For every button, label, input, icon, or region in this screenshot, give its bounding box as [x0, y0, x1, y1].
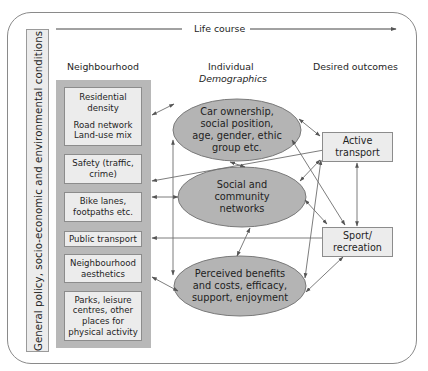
factor-text: community [214, 191, 269, 203]
social-networks-text: Social and community networks [184, 167, 300, 227]
item-text: Land-use mix [74, 130, 132, 141]
neighbourhood-item-density-road-landuse: Residential density Road network Land-us… [64, 87, 142, 146]
factor-text: Social and [217, 179, 268, 191]
factor-text: and costs, efficacy, [193, 280, 287, 292]
item-text: footpaths etc. [73, 207, 133, 218]
neighbourhood-item-safety: Safety (traffic, crime) [64, 154, 142, 184]
perceived-benefits-text: Perceived benefits and costs, efficacy, … [176, 256, 304, 316]
factor-text: Perceived benefits [195, 268, 285, 280]
outcome-text: transport [323, 147, 392, 159]
item-text: Road network [73, 120, 132, 131]
item-text: centres, other [73, 305, 133, 316]
outcome-text: recreation [323, 242, 392, 254]
item-text: Parks, leisure [74, 295, 131, 306]
column-subheader-demographics: Demographics [199, 73, 267, 84]
item-text: density [87, 103, 119, 114]
item-text: places for [82, 316, 124, 327]
column-header-outcomes: Desired outcomes [313, 61, 398, 72]
item-text: Safety (traffic, [72, 158, 134, 169]
timeline-label: Life course [190, 23, 249, 34]
factor-text: support, enjoyment [192, 292, 288, 304]
factor-text: group etc. [212, 142, 262, 154]
neighbourhood-item-bike-lanes: Bike lanes, footpaths etc. [64, 192, 142, 222]
outcome-sport-recreation: Sport/ recreation [322, 227, 393, 257]
neighbourhood-item-aesthetics: Neighbourhood aesthetics [64, 254, 142, 283]
neighbourhood-item-public-transport: Public transport [64, 231, 142, 247]
item-text: aesthetics [81, 269, 125, 280]
factor-text: social position, [201, 118, 274, 130]
column-header-individual: Individual [208, 61, 254, 72]
item-text: Bike lanes, [80, 196, 127, 207]
item-text: Public transport [69, 234, 137, 245]
outcome-text: Sport/ [323, 230, 392, 242]
item-text: Residential [79, 92, 126, 103]
factor-text: age, gender, ethic [192, 130, 282, 142]
item-text: Neighbourhood [70, 258, 136, 269]
outcome-active-transport: Active transport [322, 132, 393, 162]
neighbourhood-item-parks-leisure: Parks, leisure centres, other places for… [64, 291, 142, 341]
side-label: General policy, socio-economic and envir… [32, 30, 43, 350]
item-text: crime) [89, 169, 117, 180]
outcome-text: Active [323, 135, 392, 147]
item-text: physical activity [68, 327, 138, 338]
factor-text: Car ownership, [200, 106, 274, 118]
demographics-text: Car ownership, social position, age, gen… [178, 97, 296, 163]
side-label-bar: General policy, socio-economic and envir… [26, 29, 49, 352]
column-header-neighbourhood: Neighbourhood [67, 61, 139, 72]
factor-text: networks [220, 203, 265, 215]
